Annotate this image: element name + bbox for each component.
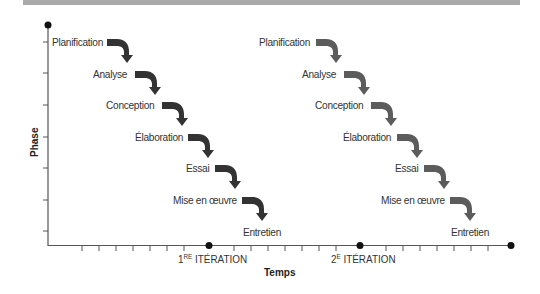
axis-end-dot: [508, 242, 515, 249]
phase-label-planification-2: Planification: [259, 36, 310, 48]
iteration-1-end-dot: [206, 242, 213, 249]
phase-label-conception-2: Conception: [315, 99, 363, 111]
phase-label-essai-1: Essai: [186, 162, 209, 174]
phase-label-elaboration-2: Élaboration: [343, 131, 391, 143]
phase-label-planification-1: Planification: [52, 36, 103, 48]
phase-label-entretien-1: Entretien: [243, 226, 281, 238]
axis-origin-dot: [45, 22, 52, 29]
phase-label-essai-2: Essai: [395, 162, 418, 174]
x-axis-title: Temps: [264, 267, 296, 278]
phase-label-analyse-2: Analyse: [302, 68, 336, 80]
iteration-1-label: 1RE ITÉRATION: [178, 253, 247, 265]
phase-label-mise-en-oeuvre-1: Mise en œuvre: [173, 194, 237, 206]
phase-label-elaboration-1: Élaboration: [135, 131, 183, 143]
y-axis-title: Phase: [29, 128, 40, 157]
iteration-2-end-dot: [357, 242, 364, 249]
phase-label-entretien-2: Entretien: [451, 226, 489, 238]
phase-label-conception-1: Conception: [106, 99, 154, 111]
phase-label-analyse-1: Analyse: [93, 68, 127, 80]
iteration-2-label: 2E ITÉRATION: [331, 253, 396, 265]
phase-label-mise-en-oeuvre-2: Mise en œuvre: [381, 194, 445, 206]
